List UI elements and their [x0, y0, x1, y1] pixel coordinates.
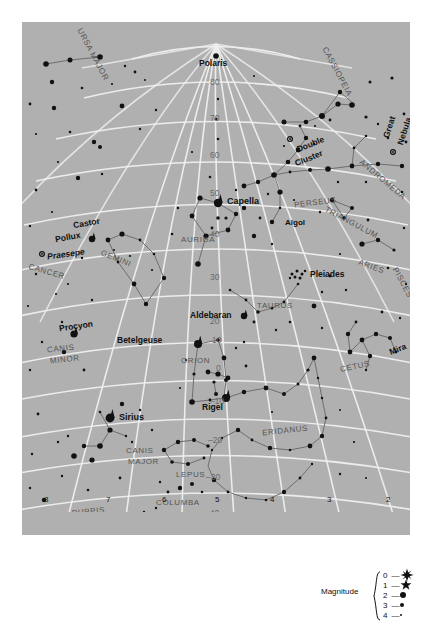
legend-row-1: 1 —: [383, 580, 414, 590]
legend-magnitude-2: 2: [383, 591, 391, 600]
legend-row-3: 3 —: [383, 600, 414, 610]
ra-label-6: 6: [162, 495, 166, 504]
legend-magnitude-1: 1: [383, 581, 391, 590]
legend-row-2: 2 —: [383, 590, 414, 600]
legend-dash-4: —: [391, 611, 400, 620]
ra-label-3: 3: [327, 495, 331, 504]
sky-map-canvas: Polaris Capella Algol Castor Pollux Alde…: [22, 22, 410, 512]
ra-label-4: 4: [270, 495, 274, 504]
legend-dash-2: —: [391, 591, 400, 600]
legend-dash-3: —: [391, 601, 400, 610]
legend-symbol-mag2: [400, 592, 414, 598]
sky-chart: Polaris Capella Algol Castor Pollux Alde…: [22, 22, 410, 535]
ra-label-5: 5: [215, 495, 219, 504]
legend-magnitude-4: 4: [383, 611, 391, 620]
legend-symbol-mag4: [400, 614, 414, 616]
ra-label-7: 7: [106, 495, 110, 504]
brace-icon: [372, 571, 381, 621]
legend-title: Magnitude: [321, 587, 358, 596]
legend-magnitude-0: 0: [383, 571, 391, 580]
legend-dash-0: —: [391, 571, 400, 580]
legend-dash-1: —: [391, 581, 400, 590]
ra-label-2: 2: [386, 495, 390, 504]
ra-label-8: 8: [44, 495, 48, 504]
legend-symbol-mag3: [400, 603, 414, 607]
legend-magnitude-3: 3: [383, 601, 391, 610]
legend-row-4: 4 —: [383, 610, 414, 620]
sky-map-svg: [22, 22, 410, 512]
magnitude-legend: Magnitude 0 — 1 —: [321, 570, 431, 622]
